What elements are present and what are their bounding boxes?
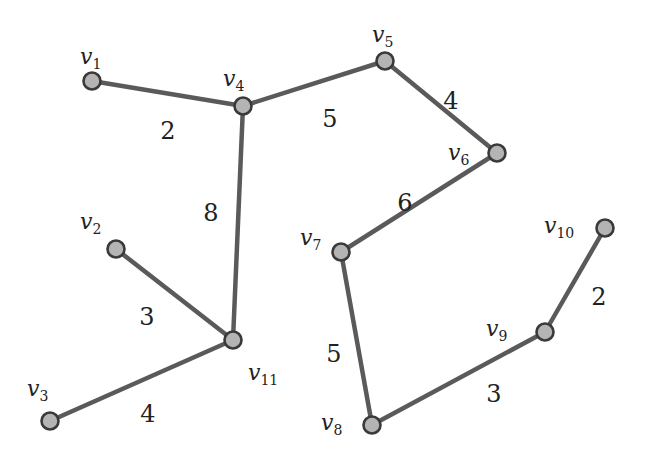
node-label-v2: v2: [80, 209, 101, 237]
node-v10: [597, 220, 614, 237]
edge-weight-label: 6: [397, 189, 412, 217]
node-label-v3: v3: [27, 376, 48, 404]
node-label-v10: v10: [544, 213, 574, 241]
node-label-v4: v4: [223, 66, 244, 94]
node-v4: [235, 98, 252, 115]
edge-weight-label: 3: [139, 303, 154, 331]
node-label-v6: v6: [448, 140, 469, 168]
edge-v7-v8: [341, 252, 372, 425]
edge-weight-label: 4: [443, 87, 458, 115]
edge-weight-label: 4: [140, 400, 155, 428]
node-label-v7: v7: [300, 225, 321, 253]
node-v7: [333, 244, 350, 261]
edge-weight-label: 3: [486, 380, 501, 408]
node-v5: [377, 53, 394, 70]
node-v1: [84, 73, 101, 90]
node-label-v8: v8: [321, 410, 342, 438]
node-v9: [537, 324, 554, 341]
node-label-v11: v11: [248, 360, 278, 388]
edge-v8-v9: [372, 332, 545, 425]
node-v6: [489, 145, 506, 162]
edge-v2-v11: [116, 249, 233, 340]
edge-weight-label: 8: [203, 199, 218, 227]
node-v3: [42, 413, 59, 430]
node-label-v9: v9: [486, 316, 507, 344]
edge-v5-v6: [385, 61, 497, 153]
weighted-graph-diagram: 2548346532v1v2v3v4v5v6v7v8v9v10v11: [0, 0, 654, 459]
node-v11: [225, 332, 242, 349]
edge-weight-label: 2: [160, 117, 175, 145]
edge-v4-v5: [243, 61, 385, 106]
edge-weight-label: 5: [326, 340, 341, 368]
node-label-v5: v5: [372, 22, 393, 50]
edge-v4-v11: [233, 106, 243, 340]
edge-v6-v7: [341, 153, 497, 252]
edge-v9-v10: [545, 228, 605, 332]
node-label-v1: v1: [80, 44, 101, 72]
edge-weight-label: 5: [322, 105, 337, 133]
edge-weight-label: 2: [591, 283, 606, 311]
node-v8: [364, 417, 381, 434]
node-v2: [108, 241, 125, 258]
edge-v1-v4: [92, 81, 243, 106]
